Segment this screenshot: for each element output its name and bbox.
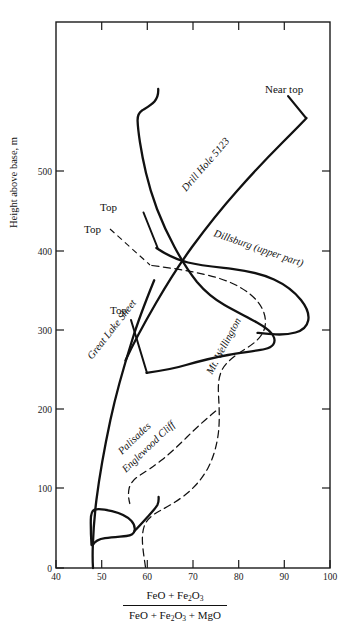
leader-top-mt-wellington bbox=[110, 229, 150, 265]
label-top-mt-wellington: Top bbox=[84, 223, 101, 235]
x-tick-label: 80 bbox=[234, 572, 244, 582]
x-tick-labels: 40 50 60 70 80 90 100 bbox=[51, 572, 337, 582]
x-axis-ticks bbox=[56, 22, 330, 568]
curve-great-lake-basal-hook bbox=[91, 509, 135, 545]
chart-plot-area: 40 50 60 70 80 90 100 0 100 200 300 400 … bbox=[0, 0, 350, 640]
x-tick-label: 60 bbox=[143, 572, 153, 582]
y-tick-label: 300 bbox=[38, 326, 53, 336]
label-top-dillsburg: Top bbox=[100, 201, 117, 213]
label-dillsburg: Dillsburg (upper part) bbox=[211, 227, 305, 269]
plot-frame bbox=[56, 22, 330, 568]
x-tick-label: 100 bbox=[323, 572, 338, 582]
y-tick-label: 500 bbox=[38, 167, 53, 177]
x-tick-label: 50 bbox=[97, 572, 107, 582]
x-tick-label: 90 bbox=[280, 572, 290, 582]
label-near-top: Near top bbox=[265, 83, 304, 95]
y-tick-label: 0 bbox=[47, 564, 52, 574]
y-tick-label: 200 bbox=[38, 405, 53, 415]
figure-container: 40 50 60 70 80 90 100 0 100 200 300 400 … bbox=[0, 0, 350, 640]
y-tick-label: 400 bbox=[38, 247, 53, 257]
leader-top-dillsburg bbox=[144, 213, 158, 248]
curve-palisades bbox=[138, 89, 275, 373]
x-tick-label: 40 bbox=[51, 572, 61, 582]
curve-mt-wellington bbox=[142, 266, 265, 569]
x-tick-label: 70 bbox=[188, 572, 198, 582]
label-top-palisades: Top bbox=[110, 304, 127, 316]
label-drill-hole-5123: Drill Hole 5123 bbox=[179, 135, 232, 194]
y-tick-label: 100 bbox=[38, 484, 53, 494]
y-tick-labels: 0 100 200 300 400 500 bbox=[38, 167, 53, 574]
leader-near-top bbox=[288, 96, 306, 118]
